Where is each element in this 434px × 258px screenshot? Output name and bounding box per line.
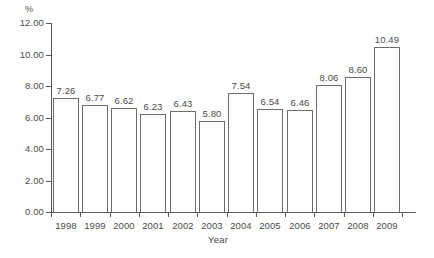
y-axis-tick-label-wrap: 12.00 <box>0 18 44 28</box>
y-axis-tick <box>46 149 51 150</box>
y-axis-tick <box>46 23 51 24</box>
y-axis-tick-label-wrap: 4.00 <box>0 144 44 154</box>
y-axis-tick-label: 12.00 <box>0 18 44 28</box>
bar <box>228 93 254 212</box>
bar <box>257 109 283 212</box>
y-axis-tick-label: 6.00 <box>0 113 44 123</box>
y-axis-tick-label-wrap: 2.00 <box>0 176 44 186</box>
bar <box>170 111 196 212</box>
x-axis-tick <box>227 212 228 217</box>
bar <box>82 105 108 212</box>
bar <box>316 85 342 212</box>
y-axis-tick <box>46 55 51 56</box>
bar <box>345 77 371 212</box>
x-axis-tick <box>80 212 81 217</box>
y-axis-tick-label: 4.00 <box>0 144 44 154</box>
bar <box>374 47 400 212</box>
bar-chart: % 12.0010.008.006.004.002.000.00 7.266.7… <box>0 0 434 258</box>
x-axis-category-label: 2009 <box>367 220 407 231</box>
x-axis-tick <box>51 212 52 217</box>
y-axis-tick-label: 8.00 <box>0 81 44 91</box>
x-axis-tick <box>314 212 315 217</box>
y-axis-unit-label: % <box>25 4 33 14</box>
x-axis-tick <box>110 212 111 217</box>
y-axis-tick-label-wrap: 8.00 <box>0 81 44 91</box>
y-axis-tick <box>46 118 51 119</box>
bar <box>287 110 313 212</box>
bar <box>111 108 137 212</box>
y-axis-tick-label: 0.00 <box>0 207 44 217</box>
x-axis-title-text: Year <box>208 234 228 245</box>
x-axis-tick <box>139 212 140 217</box>
x-axis-line <box>51 212 416 213</box>
y-axis-line <box>51 23 52 213</box>
bar <box>53 98 79 212</box>
y-axis-tick <box>46 181 51 182</box>
y-axis-tick-label-wrap: 6.00 <box>0 113 44 123</box>
bar-value-label: 10.49 <box>365 34 409 45</box>
y-axis-tick-label-wrap: 10.00 <box>0 50 44 60</box>
x-axis-title: Year <box>0 234 434 245</box>
x-axis-tick <box>373 212 374 217</box>
x-axis-tick <box>168 212 169 217</box>
x-axis-tick <box>285 212 286 217</box>
x-axis-tick <box>402 212 403 217</box>
x-axis-tick <box>256 212 257 217</box>
bar <box>140 114 166 212</box>
bar <box>199 121 225 212</box>
x-axis-tick <box>344 212 345 217</box>
bar-value-label: 7.54 <box>219 80 263 91</box>
y-axis-tick-label-wrap: 0.00 <box>0 207 44 217</box>
x-axis-tick <box>197 212 198 217</box>
y-axis-tick-label: 2.00 <box>0 176 44 186</box>
y-axis-tick-label: 10.00 <box>0 50 44 60</box>
